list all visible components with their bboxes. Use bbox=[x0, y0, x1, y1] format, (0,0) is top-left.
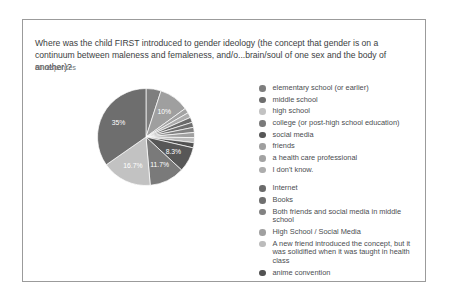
pie-slice-percent-label: 11.7% bbox=[150, 161, 169, 168]
legend-swatch bbox=[259, 132, 266, 139]
legend-item: social media bbox=[259, 131, 431, 140]
legend-item-label: I don't know. bbox=[273, 166, 423, 175]
legend-swatch bbox=[259, 229, 266, 236]
legend-item: anime convention bbox=[259, 269, 431, 278]
legend-item: high school bbox=[259, 107, 431, 116]
legend-item: I don't know. bbox=[259, 166, 431, 175]
pie-slice-percent-label: 10% bbox=[157, 108, 171, 115]
pie-slice-percent-label: 35% bbox=[112, 119, 126, 126]
legend-item: college (or post-high school education) bbox=[259, 119, 431, 128]
legend-item: friends bbox=[259, 142, 431, 151]
legend-swatch bbox=[259, 241, 266, 248]
legend-item-label: friends bbox=[273, 142, 423, 151]
legend-item: a health care professional bbox=[259, 154, 431, 163]
legend-item-label: A new friend introduced the concept, but… bbox=[273, 240, 423, 266]
legend-swatch bbox=[259, 97, 266, 104]
legend-item: A new friend introduced the concept, but… bbox=[259, 240, 431, 266]
legend-swatch bbox=[259, 120, 266, 127]
question-title-line2: continuum between maleness and femalenes… bbox=[35, 49, 417, 73]
pie-slice-percent-label: 16.7% bbox=[123, 162, 142, 169]
legend-item-label: elementary school (or earlier) bbox=[273, 84, 423, 93]
legend-item: Internet bbox=[259, 184, 431, 193]
legend-swatch bbox=[259, 197, 266, 204]
legend-item-label: Both friends and social media in middle … bbox=[273, 208, 423, 225]
legend-item-label: anime convention bbox=[273, 269, 423, 278]
legend-item-label: middle school bbox=[273, 96, 423, 105]
legend-swatch bbox=[259, 167, 266, 174]
legend-swatch bbox=[259, 185, 266, 192]
screenshot-root: Where was the child FIRST introduced to … bbox=[0, 0, 449, 299]
chart-legend: elementary school (or earlier)middle sch… bbox=[259, 84, 431, 280]
legend-swatch bbox=[259, 108, 266, 115]
legend-item-label: High School / Social Media bbox=[273, 228, 423, 237]
legend-item-label: social media bbox=[273, 131, 423, 140]
pie-chart-svg: 10%8.3%11.7%16.7%35% bbox=[96, 87, 196, 187]
legend-item: Books bbox=[259, 196, 431, 205]
legend-item: High School / Social Media bbox=[259, 228, 431, 237]
legend-swatch bbox=[259, 85, 266, 92]
legend-item-label: college (or post-high school education) bbox=[273, 119, 423, 128]
legend-item-label: high school bbox=[273, 107, 423, 116]
form-results-card: Where was the child FIRST introduced to … bbox=[22, 19, 426, 282]
legend-item: elementary school (or earlier) bbox=[259, 84, 431, 93]
question-title: Where was the child FIRST introduced to … bbox=[35, 37, 417, 73]
question-title-line1: Where was the child FIRST introduced to … bbox=[35, 37, 417, 49]
legend-swatch bbox=[259, 209, 266, 216]
legend-item-label: a health care professional bbox=[273, 154, 423, 163]
legend-swatch bbox=[259, 270, 266, 277]
responses-count: 60 responses bbox=[35, 64, 76, 71]
legend-item-label: Internet bbox=[273, 184, 423, 193]
pie-chart: 10%8.3%11.7%16.7%35% bbox=[96, 87, 196, 187]
legend-swatch bbox=[259, 143, 266, 150]
legend-item-label: Books bbox=[273, 196, 423, 205]
pie-slice-percent-label: 8.3% bbox=[166, 148, 182, 155]
legend-item: Both friends and social media in middle … bbox=[259, 208, 431, 225]
legend-item: middle school bbox=[259, 96, 431, 105]
legend-swatch bbox=[259, 155, 266, 162]
